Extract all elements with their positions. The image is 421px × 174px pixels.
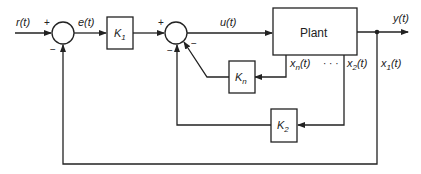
control-signal: u(t) — [187, 16, 272, 33]
block-diagram: r(t) + − e(t) K1 + − − u(t) Plant y(t) — [0, 0, 421, 174]
plus-sign: + — [158, 17, 164, 28]
error-signal: e(t) — [74, 16, 106, 33]
minus-sign-right: − — [191, 38, 197, 49]
summing-junction-1: + − — [44, 17, 74, 55]
gain-block-k1: K1 — [107, 17, 133, 49]
plus-sign: + — [44, 17, 50, 28]
gain-block-k2: K2 — [271, 109, 297, 142]
x1-label: x1(t) — [380, 57, 402, 72]
error-label: e(t) — [78, 16, 95, 28]
reference-label: r(t) — [16, 16, 30, 28]
gain-block-kn: Kn — [229, 61, 255, 93]
minus-sign: − — [50, 44, 56, 55]
control-label: u(t) — [220, 16, 237, 28]
minus-sign-bottom: − — [167, 45, 173, 56]
xn-feedback-path: xn(t) · · · — [255, 55, 339, 77]
k2-to-summer2-wire — [177, 45, 271, 125]
x2-label: x2(t) — [346, 57, 368, 72]
output-signal: y(t) — [357, 12, 409, 34]
xn-label: xn(t) — [289, 57, 311, 72]
ellipsis: · · · — [323, 58, 339, 69]
output-label: y(t) — [392, 12, 409, 24]
plant-block: Plant — [273, 8, 357, 55]
plant-label: Plant — [300, 26, 328, 40]
